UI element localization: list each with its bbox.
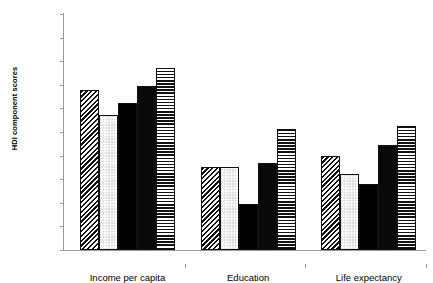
y-tick-mark — [60, 203, 64, 204]
bar-series-2-1 — [99, 115, 118, 250]
bar-series-2-3 — [340, 174, 359, 250]
y-tick-mark — [60, 108, 64, 109]
bar-series-1-1 — [80, 90, 99, 250]
bar-series-4-2 — [258, 163, 277, 250]
x-axis-line — [63, 250, 426, 251]
bar-series-3-1 — [118, 103, 137, 250]
y-tick-mark — [60, 61, 64, 62]
bar-series-5-1 — [156, 68, 175, 250]
bar-group — [80, 14, 175, 250]
y-tick-mark — [60, 14, 64, 15]
plot-area: 10.950.90.850.80.750.70.650.60.550.5 Inc… — [64, 14, 426, 250]
bar-series-5-2 — [277, 129, 296, 250]
bar-group — [201, 14, 296, 250]
bar-group — [321, 14, 416, 250]
bar-series-1-2 — [201, 167, 220, 250]
x-tick-mark — [426, 264, 427, 268]
x-axis-label: Life expectancy — [309, 272, 429, 283]
x-tick-mark — [185, 264, 186, 268]
y-tick-mark — [60, 38, 64, 39]
x-tick-mark — [305, 264, 306, 268]
bar-series-5-3 — [397, 126, 416, 250]
y-axis-title: HDI component scores — [10, 39, 19, 179]
y-tick-mark — [60, 85, 64, 86]
bar-series-3-3 — [359, 184, 378, 250]
y-tick-mark — [60, 226, 64, 227]
x-axis-label: Education — [188, 272, 308, 283]
bar-series-1-3 — [321, 156, 340, 250]
bar-series-2-2 — [220, 167, 239, 250]
y-tick-mark — [60, 132, 64, 133]
bar-series-4-3 — [378, 145, 397, 250]
x-axis-label: Income per capita — [68, 272, 188, 283]
cropped-title-remnant — [0, 0, 433, 5]
bar-series-4-1 — [137, 86, 156, 250]
bar-series-3-2 — [239, 204, 258, 250]
y-tick-mark — [60, 250, 64, 251]
y-tick-mark — [60, 156, 64, 157]
y-tick-mark — [60, 179, 64, 180]
